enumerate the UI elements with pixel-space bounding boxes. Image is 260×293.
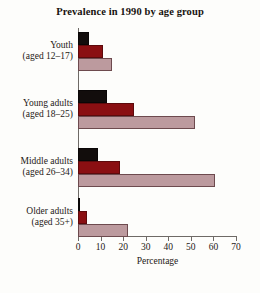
category-label-line2-0: (aged 12–17) bbox=[0, 51, 73, 63]
category-label-line2-3: (aged 35+) bbox=[0, 217, 73, 229]
bar-0-2 bbox=[78, 58, 112, 71]
bar-3-1 bbox=[78, 211, 87, 224]
bar-3-0 bbox=[78, 198, 80, 211]
category-label-line1-3: Older adults bbox=[26, 206, 73, 216]
category-label-line1-0: Youth bbox=[50, 40, 73, 50]
bar-2-2 bbox=[78, 174, 215, 187]
bar-2-1 bbox=[78, 161, 120, 174]
category-label-0: Youth(aged 12–17) bbox=[0, 40, 73, 63]
bar-3-2 bbox=[78, 224, 128, 237]
x-axis-title: Percentage bbox=[78, 256, 237, 266]
bar-2-0 bbox=[78, 148, 98, 161]
bar-1-1 bbox=[78, 103, 134, 116]
category-label-line2-2: (aged 26–34) bbox=[0, 167, 73, 179]
bar-1-0 bbox=[78, 90, 107, 103]
x-tick-label-70: 70 bbox=[223, 242, 249, 252]
bar-0-0 bbox=[78, 32, 89, 45]
x-tick-20 bbox=[123, 237, 124, 241]
x-tick-50 bbox=[191, 237, 192, 241]
x-tick-30 bbox=[146, 237, 147, 241]
category-label-1: Young adults(aged 18–25) bbox=[0, 98, 73, 121]
category-label-line2-1: (aged 18–25) bbox=[0, 109, 73, 121]
category-label-3: Older adults(aged 35+) bbox=[0, 206, 73, 229]
x-tick-60 bbox=[213, 237, 214, 241]
x-tick-0 bbox=[78, 237, 79, 241]
x-tick-40 bbox=[168, 237, 169, 241]
x-tick-10 bbox=[101, 237, 102, 241]
chart-title: Prevalence in 1990 by age group bbox=[0, 6, 260, 17]
bar-1-2 bbox=[78, 116, 195, 129]
category-label-line1-1: Young adults bbox=[23, 98, 73, 108]
category-label-line1-2: Middle adults bbox=[20, 156, 73, 166]
x-tick-70 bbox=[236, 237, 237, 241]
bar-chart-figure: Prevalence in 1990 by age group 01020304… bbox=[0, 0, 260, 293]
category-label-2: Middle adults(aged 26–34) bbox=[0, 156, 73, 179]
bar-0-1 bbox=[78, 45, 103, 58]
